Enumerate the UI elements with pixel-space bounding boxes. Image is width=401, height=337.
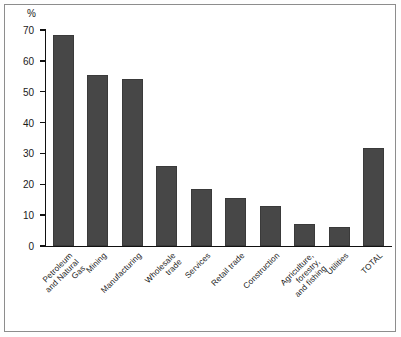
- chart-figure: % 010203040506070 Petroleum and Natural …: [0, 0, 401, 337]
- y-tick-label-60: 60: [14, 55, 34, 66]
- y-tick-20: [40, 184, 45, 185]
- bar: [156, 166, 177, 246]
- bar: [53, 35, 74, 246]
- bar: [329, 227, 350, 246]
- bar: [260, 206, 281, 246]
- bar: [87, 75, 108, 246]
- y-tick-label-50: 50: [14, 86, 34, 97]
- bar: [363, 148, 384, 246]
- y-tick-label-70: 70: [14, 25, 34, 36]
- y-tick-label-0: 0: [14, 241, 34, 252]
- y-tick-50: [40, 91, 45, 92]
- y-tick-70: [40, 29, 45, 30]
- y-tick-60: [40, 60, 45, 61]
- y-tick-label-10: 10: [14, 210, 34, 221]
- y-tick-0: [40, 245, 45, 246]
- y-tick-10: [40, 214, 45, 215]
- y-tick-label-30: 30: [14, 148, 34, 159]
- bar: [294, 224, 315, 246]
- y-tick-label-20: 20: [14, 179, 34, 190]
- y-tick-40: [40, 122, 45, 123]
- bar: [191, 189, 212, 246]
- y-tick-30: [40, 153, 45, 154]
- x-axis-line: [45, 246, 392, 247]
- bar: [225, 198, 246, 246]
- y-tick-label-40: 40: [14, 117, 34, 128]
- plot-area: [46, 30, 391, 246]
- bar: [122, 79, 143, 246]
